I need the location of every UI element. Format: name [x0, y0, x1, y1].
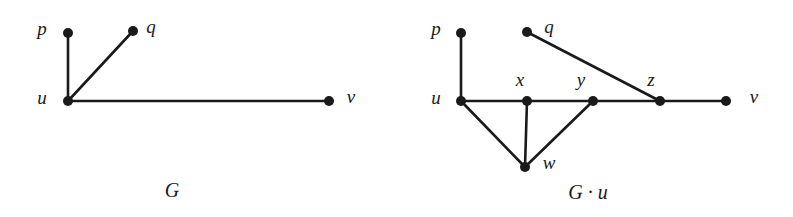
vertex-label-q: q — [544, 17, 554, 36]
graph-vertex-w — [520, 162, 530, 172]
vertices-layer — [63, 26, 731, 172]
vertex-label-u: u — [431, 88, 441, 107]
graph-edge-u-q — [68, 31, 133, 101]
vertex-label-z: z — [647, 70, 654, 89]
vertex-label-p: p — [431, 19, 441, 38]
graph-caption-graph-G: G — [165, 180, 179, 200]
graph-vertex-q — [128, 26, 138, 36]
vertex-label-x: x — [516, 70, 524, 89]
vertex-label-y: y — [577, 70, 585, 89]
graph-vertex-v — [324, 96, 334, 106]
graph-drawing-layer — [0, 0, 793, 217]
vertex-label-v: v — [347, 87, 355, 106]
graph-vertex-u — [63, 96, 73, 106]
graph-vertex-p — [63, 28, 73, 38]
graph-edge-y-w — [525, 101, 593, 167]
graph-caption-graph-G-contract-u: G · u — [568, 182, 607, 202]
vertex-label-p: p — [37, 19, 47, 38]
graph-vertex-q — [522, 27, 532, 37]
vertex-label-u: u — [37, 88, 47, 107]
graph-vertex-y — [588, 96, 598, 106]
graph-vertex-x — [522, 96, 532, 106]
graph-vertex-z — [655, 96, 665, 106]
graph-edge-x-w — [525, 101, 527, 167]
edges-layer — [68, 31, 726, 167]
graph-edge-u-w — [461, 101, 525, 167]
graph-vertex-v — [721, 96, 731, 106]
vertex-label-q: q — [146, 17, 156, 36]
graph-edge-q-z — [527, 32, 660, 101]
figure-canvas: pquvGpquxyzvwG · u — [0, 0, 793, 217]
vertex-label-v: v — [750, 87, 758, 106]
graph-vertex-u — [456, 96, 466, 106]
vertex-label-w: w — [543, 153, 556, 172]
graph-vertex-p — [456, 28, 466, 38]
